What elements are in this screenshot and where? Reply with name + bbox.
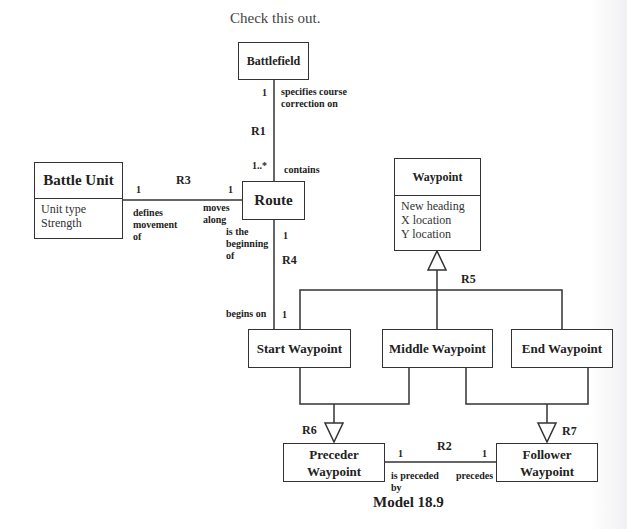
attribute: X location <box>401 213 480 227</box>
phrase-line: is preceded <box>391 470 439 482</box>
attribute: Y location <box>401 227 480 241</box>
r1-mult-top: 1 <box>262 87 267 98</box>
class-name: Battle Unit <box>35 163 122 199</box>
phrase-line: beginning <box>226 238 268 250</box>
class-attributes: New heading X location Y location <box>395 196 480 241</box>
phrase-line: correction on <box>281 98 347 110</box>
phrase-line: moves <box>203 202 230 214</box>
r4-label: R4 <box>282 253 297 268</box>
phrase-line: by <box>391 482 439 494</box>
class-attributes: Unit type Strength <box>35 199 122 230</box>
model-caption: Model 18.9 <box>373 494 444 511</box>
r2-label: R2 <box>437 439 452 454</box>
class-middle-waypoint: Middle Waypoint <box>382 329 493 368</box>
attribute: Strength <box>41 216 122 230</box>
class-name: Start Waypoint <box>257 340 342 357</box>
class-name: End Waypoint <box>522 340 602 357</box>
generalization-arrow-r7 <box>538 423 556 442</box>
r2-mult-left: 1 <box>398 448 403 459</box>
r3-mult-left: 1 <box>136 184 141 195</box>
phrase-line: along <box>203 214 230 226</box>
r2-mult-right: 1 <box>482 448 487 459</box>
r4-phrase-bottom: begins on <box>226 308 266 320</box>
class-name-line1: Preceder <box>309 446 359 463</box>
class-preceder-waypoint: Preceder Waypoint <box>283 443 385 482</box>
phrase-line: is the <box>226 226 268 238</box>
class-name: Middle Waypoint <box>389 340 486 357</box>
phrase-line: movement <box>133 219 177 231</box>
class-waypoint: Waypoint New heading X location Y locati… <box>394 158 481 251</box>
class-name: Battlefield <box>247 54 300 69</box>
r3-phrase-right: moves along <box>203 202 230 226</box>
class-start-waypoint: Start Waypoint <box>248 329 351 368</box>
attribute: Unit type <box>41 202 122 216</box>
r6-label: R6 <box>302 423 317 438</box>
r2-phrase-left: is preceded by <box>391 470 439 494</box>
r1-phrase-top: specifies course correction on <box>281 86 347 110</box>
phrase-line: of <box>226 250 268 262</box>
generalization-arrow-r6 <box>325 423 343 442</box>
r3-label: R3 <box>176 173 191 188</box>
class-name: Route <box>254 192 292 209</box>
r4-phrase-top: is the beginning of <box>226 226 268 262</box>
class-follower-waypoint: Follower Waypoint <box>496 443 598 482</box>
r5-label: R5 <box>461 272 476 287</box>
generalization-arrow-r5 <box>428 251 446 270</box>
phrase-line: defines <box>133 207 177 219</box>
class-name-line2: Waypoint <box>307 463 361 480</box>
class-battle-unit: Battle Unit Unit type Strength <box>34 162 123 239</box>
r4-mult-top: 1 <box>283 230 288 241</box>
class-end-waypoint: End Waypoint <box>511 329 613 368</box>
r2-phrase-right: precedes <box>456 470 493 482</box>
class-name: Waypoint <box>395 159 480 196</box>
class-name-line2: Waypoint <box>520 463 574 480</box>
attribute: New heading <box>401 199 480 213</box>
phrase-line: of <box>133 231 177 243</box>
r3-phrase-left: defines movement of <box>133 207 177 243</box>
class-route: Route <box>242 181 305 220</box>
r3-mult-right: 1 <box>228 184 233 195</box>
r4-mult-bottom: 1 <box>282 309 287 320</box>
r1-phrase-bottom: contains <box>284 164 320 176</box>
r1-mult-bottom: 1..* <box>252 160 267 171</box>
class-battlefield: Battlefield <box>238 42 309 80</box>
phrase-line: specifies course <box>281 86 347 98</box>
class-name-line1: Follower <box>522 446 571 463</box>
r7-label: R7 <box>562 424 577 439</box>
r1-label: R1 <box>251 124 266 139</box>
